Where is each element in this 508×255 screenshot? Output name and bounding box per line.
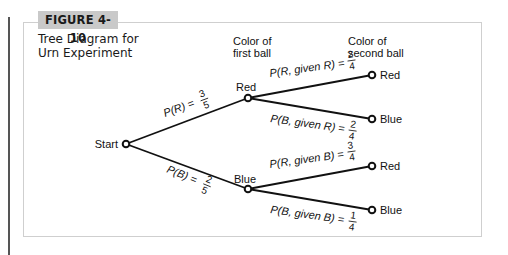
edge-blue-red <box>248 166 372 189</box>
svg-text:P(R) =: P(R) = <box>162 96 197 118</box>
node-start-icon <box>123 141 130 148</box>
node-label-bb: Blue <box>380 204 402 216</box>
svg-text:P(B, given R) =: P(B, given R) = <box>270 112 346 134</box>
svg-text:2: 2 <box>205 173 215 185</box>
svg-text:2: 2 <box>347 48 354 60</box>
svg-text:P(B, given B) =: P(B, given B) = <box>270 203 346 225</box>
node-blue-blue-icon <box>369 207 376 214</box>
node-blue-red-icon <box>369 163 376 170</box>
svg-text:P(R, given B) =: P(R, given B) = <box>269 148 345 170</box>
edge-label-p-r: P(R) = 3 5 <box>160 87 212 125</box>
edge-label-p-r-given-b: P(R, given B) = 3 4 <box>268 139 357 174</box>
svg-text:1: 1 <box>350 209 357 221</box>
svg-text:4: 4 <box>348 221 355 233</box>
svg-text:3: 3 <box>197 87 206 99</box>
edge-red-blue <box>248 98 372 119</box>
svg-text:2: 2 <box>350 118 357 130</box>
node-label-rr: Red <box>380 69 400 81</box>
edge-red-red <box>248 75 372 98</box>
node-label-br: Red <box>380 160 400 172</box>
node-first-blue-icon <box>245 186 252 193</box>
node-label-first-red: Red <box>236 81 256 93</box>
node-red-blue-icon <box>369 116 376 123</box>
edge-blue-blue <box>248 189 372 210</box>
svg-text:4: 4 <box>349 151 356 163</box>
edge-label-p-b-given-r: P(B, given R) = 2 4 <box>269 107 358 142</box>
svg-text:5: 5 <box>202 98 211 110</box>
node-first-red-icon <box>245 95 252 102</box>
edge-label-p-b-given-b: P(B, given B) = 1 4 <box>269 198 358 233</box>
tree-diagram: Start Red Blue Red Blue Red Blue P(R) = … <box>0 0 508 255</box>
svg-text:P(R, given R) =: P(R, given R) = <box>269 57 346 79</box>
svg-text:5: 5 <box>200 184 210 196</box>
edge-label-p-r-given-r: P(R, given R) = 2 4 <box>268 48 357 83</box>
node-red-red-icon <box>369 72 376 79</box>
node-label-start: Start <box>95 138 118 150</box>
edge-label-p-b: P(B) = 2 5 <box>163 158 215 197</box>
node-label-rb: Blue <box>380 113 402 125</box>
svg-text:P(B) =: P(B) = <box>165 163 199 186</box>
node-label-first-blue: Blue <box>234 173 256 185</box>
svg-text:4: 4 <box>349 60 356 72</box>
